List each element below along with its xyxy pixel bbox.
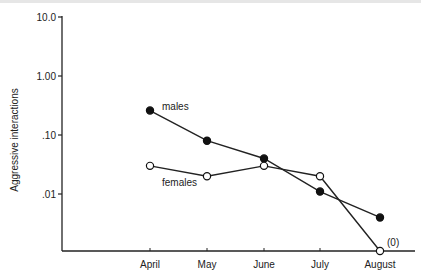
y-axis-label: Aggressive interactions: [9, 88, 20, 191]
x-tick-label: April: [140, 259, 160, 270]
males-point: [146, 107, 153, 114]
axes: 10.01.00.10.01AprilMayJuneJulyAugust: [37, 12, 415, 271]
x-tick-label: July: [311, 259, 329, 270]
females-point: [146, 162, 153, 169]
females-point: [260, 162, 267, 169]
females-point: [376, 247, 383, 254]
zero-annotation: (0): [387, 237, 399, 248]
males-label: males: [162, 101, 189, 112]
y-tick-label: 1.00: [37, 71, 57, 82]
males-point: [203, 137, 210, 144]
y-tick-label: 10.0: [37, 12, 57, 23]
females-label: females: [162, 177, 197, 188]
x-tick-label: June: [253, 259, 275, 270]
x-tick-label: August: [364, 259, 395, 270]
x-tick-label: May: [198, 259, 217, 270]
y-tick-label: .01: [42, 189, 56, 200]
males-point: [376, 214, 383, 221]
line-chart: 10.01.00.10.01AprilMayJuneJulyAugust Agg…: [0, 0, 421, 279]
males-point: [316, 188, 323, 195]
males-point: [260, 155, 267, 162]
females-point: [316, 173, 323, 180]
y-tick-label: .10: [42, 130, 56, 141]
labels: Aggressive interactionsmalesfemales(0): [9, 88, 399, 248]
females-point: [203, 173, 210, 180]
